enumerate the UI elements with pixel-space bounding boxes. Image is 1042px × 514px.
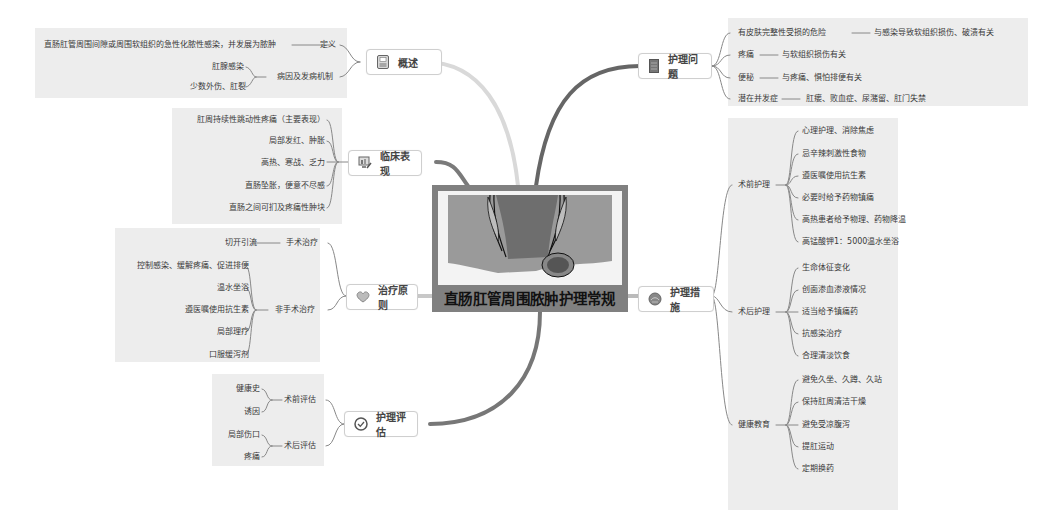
central-topic[interactable]: 直肠肛管周围脓肿护理常规 [432,185,628,312]
problem-item[interactable]: 潜在并发症 [738,94,778,104]
globe-icon [648,292,662,306]
overview-definition-text: 直肠肛管周围间隙或周围软组织的急性化脓性感染，并发展为脓肿 [44,40,276,50]
problem-note: 肛瘘、败血症、尿潴留、肛门失禁 [806,94,926,104]
measures-preop-item: 遵医嘱使用抗生素 [802,171,866,181]
clinical-item: 直肠之间可扪及疼痛性肿块 [229,203,325,213]
problem-note: 与感染导致软组织损伤、破溃有关 [874,28,994,38]
topic-treatment[interactable]: 治疗原则 [346,284,418,310]
problem-item[interactable]: 便秘 [738,73,754,83]
overview-etiology[interactable]: 病因及发病机制 [277,72,333,82]
notebook-icon [648,59,660,73]
topic-measures[interactable]: 护理措施 [638,286,714,312]
measures-postop[interactable]: 术后护理 [738,307,770,317]
assessment-preop[interactable]: 术前评估 [284,395,316,405]
document-icon [376,55,390,69]
problem-note: 与疼痛、惧怕排便有关 [782,73,862,83]
check-circle-icon [354,417,368,431]
measures-education-item: 避免受凉腹泻 [802,420,850,430]
topic-treatment-label: 治疗原则 [378,282,408,312]
measures-postop-item: 适当给予镇痛药 [802,307,858,317]
topic-measures-label: 护理措施 [670,284,704,314]
measures-preop-item: 心理护理、消除焦虑 [802,126,874,136]
treatment-nonsurgical-item: 口服缓泻剂 [209,350,249,360]
anorectal-abscess-illustration [438,191,622,285]
topic-assessment[interactable]: 护理评估 [344,411,418,437]
measures-education-item: 提肛运动 [802,442,834,452]
measures-postop-item: 合理清淡饮食 [802,351,850,361]
overview-etiology-item: 少数外伤、肛裂 [190,82,246,92]
clinical-item: 直肠坠胀，便意不尽感 [245,181,325,191]
assessment-postop[interactable]: 术后评估 [284,441,316,451]
assessment-preop-item: 健康史 [236,384,260,394]
topic-clinical-label: 临床表现 [380,148,412,178]
measures-education[interactable]: 健康教育 [738,420,770,430]
treatment-nonsurgical-item: 遵医嘱使用抗生素 [185,305,249,315]
treatment-nonsurgical-item: 温水坐浴 [217,283,249,293]
measures-preop-item: 高锰酸钾1：5000温水坐浴 [802,237,899,247]
treatment-nonsurgical[interactable]: 非手术治疗 [275,305,315,315]
measures-education-item: 定期换药 [802,464,834,474]
assessment-preop-item: 诱因 [244,407,260,417]
overview-etiology-item: 肛腺感染 [212,62,244,72]
central-title: 直肠肛管周围脓肿护理常规 [432,287,628,308]
clinical-item: 高热、寒战、乏力 [261,158,325,168]
problem-note: 与软组织损伤有关 [782,50,846,60]
assessment-postop-item: 局部伤口 [228,430,260,440]
measures-education-item: 避免久坐、久蹲、久站 [802,375,882,385]
treatment-surgical[interactable]: 手术治疗 [286,238,318,248]
measures-preop-item: 高热患者给予物理、药物降温 [802,215,906,225]
problem-item[interactable]: 有皮肤完整性受损的危险 [738,28,826,38]
topic-problems-label: 护理问题 [668,51,702,81]
measures-education-item: 保持肛周清洁干燥 [802,397,866,407]
treatment-nonsurgical-item: 局部理疗 [217,327,249,337]
measures-preop-item: 必要时给予药物镇痛 [802,193,874,203]
assessment-postop-item: 疼痛 [244,452,260,462]
measures-postop-item: 抗感染治疗 [802,329,842,339]
topic-clinical[interactable]: 临床表现 [348,150,422,176]
measures-postop-item: 创面渗血渗液情况 [802,285,866,295]
measures-postop-item: 生命体征变化 [802,263,850,273]
computer-chart-icon [358,156,372,170]
topic-assessment-label: 护理评估 [376,409,408,439]
topic-overview-label: 概述 [398,55,418,70]
treatment-nonsurgical-item: 控制感染、缓解疼痛、促进排便 [137,261,249,271]
clinical-item: 肛周持续性跳动性疼痛（主要表现） [197,115,325,125]
topic-problems[interactable]: 护理问题 [638,53,712,79]
treatment-surgical-item: 切开引流 [225,238,257,248]
problem-item[interactable]: 疼痛 [738,50,754,60]
overview-definition[interactable]: 定义 [320,40,336,50]
measures-preop[interactable]: 术前护理 [738,180,770,190]
clinical-item: 局部发红、肿胀 [269,136,325,146]
heart-icon [356,290,370,304]
measures-preop-item: 忌辛辣刺激性食物 [802,149,866,159]
topic-overview[interactable]: 概述 [366,49,442,75]
